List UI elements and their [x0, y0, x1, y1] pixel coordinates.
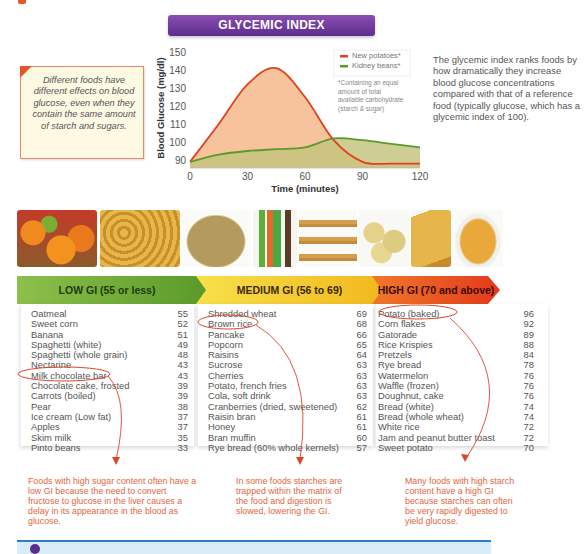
photo-cereal [453, 210, 503, 267]
side-description: The glycemic index ranks foods by how dr… [433, 54, 585, 122]
photo-pasta [100, 210, 180, 267]
annotation-medium-gi: In some foods starches are trapped withi… [236, 476, 348, 516]
legend-note-line: available carbohydrate [338, 96, 404, 104]
photo-fruits [17, 210, 97, 267]
gi-table-high: Potato (baked)96Corn flakes92Gatorade89R… [375, 304, 548, 446]
y-tick-label: 110 [170, 119, 186, 130]
note-corner-icon [20, 66, 32, 78]
food-name: Rye bread (60% whole kernels) [208, 443, 339, 453]
gi-bar-low: LOW GI (55 or less) [17, 276, 207, 304]
chart-title: GLYCEMIC INDEX [168, 15, 375, 36]
gi-table-row: Sweet potato70 [378, 443, 534, 453]
annotation-low-gi: Foods with high sugar content often have… [28, 476, 200, 526]
gi-table-row: Carrots (boiled)39 [31, 391, 188, 401]
photo-soft-drinks [253, 210, 297, 267]
chart-svg: 90100110120130140150 0306090120 Blood Gl… [150, 40, 440, 200]
gi-table-low: Oatmeal55Sweet corn52Banana51Spaghetti (… [20, 304, 194, 446]
legend-note-line: *Containing an equal [338, 79, 399, 87]
gi-list-low: Oatmeal55Sweet corn52Banana51Spaghetti (… [21, 304, 194, 453]
x-tick-label: 30 [242, 171, 254, 182]
photo-pancakes [299, 210, 357, 267]
x-tick-label: 0 [187, 171, 193, 182]
note-box: Different foods have different effects o… [20, 66, 144, 159]
photo-bread [411, 210, 451, 267]
section-marker [18, 0, 26, 4]
legend-swatch [340, 65, 348, 68]
y-tick-label: 120 [169, 101, 186, 112]
gi-bar-high-label: HIGH GI (70 and above) [372, 276, 500, 304]
note-text: Different foods have different effects o… [31, 75, 137, 132]
legend-swatch [340, 55, 348, 58]
food-photo-strip [17, 210, 491, 267]
photo-brown-rice [181, 210, 251, 267]
gi-bar-low-label: LOW GI (55 or less) [17, 276, 197, 304]
legend-note-line: amount of total [338, 88, 382, 95]
svg-text:Time (minutes): Time (minutes) [271, 183, 338, 194]
y-tick-label: 140 [169, 65, 186, 76]
gi-value: 33 [178, 443, 188, 453]
x-tick-label: 60 [299, 171, 311, 182]
bottom-info-band [17, 540, 491, 554]
legend-label: New potatoes* [352, 51, 401, 60]
x-tick-label: 90 [357, 171, 369, 182]
gi-bar-high: HIGH GI (70 and above) [372, 276, 500, 304]
y-tick-label: 90 [175, 155, 187, 166]
x-tick-label: 120 [412, 171, 429, 182]
legend-note-line: (starch & sugar) [338, 105, 384, 113]
gi-table-row: Pinto beans33 [31, 443, 188, 453]
photo-potatoes [359, 210, 409, 267]
gi-value: 57 [357, 443, 367, 453]
food-name: Pinto beans [31, 443, 81, 453]
legend-label: Kidney beans* [352, 61, 400, 70]
food-name: Sweet potato [378, 443, 433, 453]
gi-table-row: Rye bread (60% whole kernels)57 [208, 443, 367, 453]
gi-list-medium: Shredded wheat69Brown rice68Pancake66Pop… [198, 304, 373, 453]
svg-text:Blood Glucose (mg/dl): Blood Glucose (mg/dl) [155, 57, 166, 158]
gi-table-medium: Shredded wheat69Brown rice68Pancake66Pop… [197, 304, 373, 446]
gi-bar-medium-label: MEDIUM GI (56 to 69) [196, 276, 383, 304]
y-tick-label: 150 [169, 47, 186, 58]
gi-bar-medium: MEDIUM GI (56 to 69) [196, 276, 383, 304]
gi-list-high: Potato (baked)96Corn flakes92Gatorade89R… [376, 304, 548, 453]
info-bullet-icon [30, 544, 40, 554]
y-tick-label: 100 [169, 137, 186, 148]
annotation-high-gi: Many foods with high starch content have… [405, 476, 523, 526]
glucose-chart: 90100110120130140150 0306090120 Blood Gl… [150, 40, 440, 200]
y-tick-label: 130 [169, 83, 186, 94]
gi-value: 70 [524, 443, 534, 453]
